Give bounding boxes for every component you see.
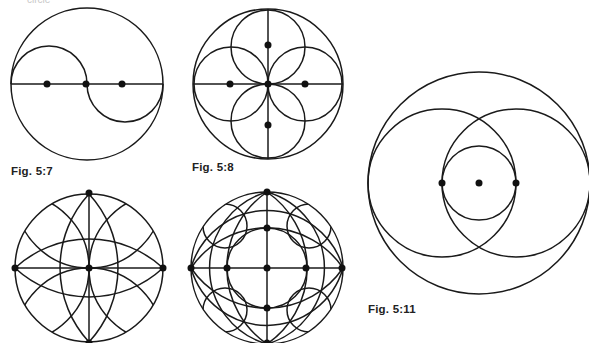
dot (302, 81, 309, 88)
dot (339, 265, 346, 272)
figure-label-5-7: Fig. 5:7 (11, 165, 53, 177)
dot (476, 180, 483, 187)
dot (264, 189, 271, 196)
dot (86, 265, 93, 272)
figure-5-8 (193, 9, 343, 159)
dot (224, 265, 231, 272)
dot (265, 81, 272, 88)
dot (160, 265, 167, 272)
figures-canvas (0, 0, 589, 343)
dot (188, 265, 195, 272)
dot (44, 81, 51, 88)
dot (303, 265, 310, 272)
figure-label-5-8: Fig. 5:8 (192, 161, 234, 173)
dot (439, 180, 446, 187)
dot (264, 340, 271, 343)
dot (86, 190, 93, 197)
dot (264, 305, 271, 312)
dot (119, 81, 126, 88)
dot (513, 180, 520, 187)
dot (227, 81, 234, 88)
dot (265, 122, 272, 129)
figure-label-5-11: Fig. 5:11 (368, 303, 416, 315)
figure-5-11 (368, 72, 589, 294)
dot (264, 225, 271, 232)
dot (264, 265, 271, 272)
dot (265, 42, 272, 49)
dot (83, 81, 90, 88)
figure-5-7 (11, 8, 163, 160)
dot (12, 265, 19, 272)
figure-5-10 (188, 189, 346, 343)
